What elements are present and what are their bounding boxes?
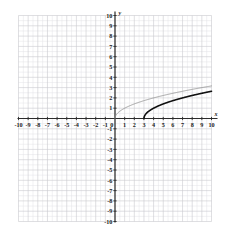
x-tick-label-2: 2 xyxy=(133,121,136,128)
y-tick-label-2: 2 xyxy=(109,94,112,101)
y-tick-label-neg3: -3 xyxy=(107,146,112,153)
y-tick-label-4: 4 xyxy=(109,74,112,81)
y-tick-label-neg7: -7 xyxy=(107,187,112,194)
y-tick-label-neg5: -5 xyxy=(107,166,112,173)
y-axis-label: y xyxy=(117,10,121,16)
x-tick-label-6: 6 xyxy=(171,121,174,128)
y-tick-label-neg8: -8 xyxy=(107,197,112,204)
x-tick-label-10: 10 xyxy=(208,121,214,128)
x-tick-label-5: 5 xyxy=(162,121,165,128)
x-tick-label-1: 1 xyxy=(123,121,126,128)
coordinate-plane-svg: -10-9-8-7-6-5-4-3-2-1012345678910-10-9-8… xyxy=(0,0,225,236)
y-tick-label-neg1: -1 xyxy=(107,125,112,132)
y-tick-label-10: 10 xyxy=(106,12,112,19)
y-tick-label-6: 6 xyxy=(109,53,112,60)
y-tick-label-1: 1 xyxy=(109,104,112,111)
x-tick-label-neg2: -2 xyxy=(93,121,98,128)
x-axis-label: x xyxy=(214,111,218,117)
y-tick-label-3: 3 xyxy=(109,84,112,91)
y-tick-label-neg4: -4 xyxy=(107,156,112,163)
y-tick-label-neg10: -10 xyxy=(104,218,112,225)
x-tick-label-4: 4 xyxy=(152,121,155,128)
x-tick-label-neg4: -4 xyxy=(74,121,79,128)
x-tick-label-neg5: -5 xyxy=(64,121,69,128)
graph-figure: -10-9-8-7-6-5-4-3-2-1012345678910-10-9-8… xyxy=(0,0,225,236)
y-tick-label-neg2: -2 xyxy=(107,135,112,142)
y-tick-label-5: 5 xyxy=(109,63,112,70)
x-tick-label-3: 3 xyxy=(142,121,145,128)
y-tick-label-neg9: -9 xyxy=(107,207,112,214)
x-tick-label-8: 8 xyxy=(191,121,194,128)
x-tick-label-7: 7 xyxy=(181,121,184,128)
y-tick-label-8: 8 xyxy=(109,32,112,39)
x-tick-label-neg10: -10 xyxy=(14,121,22,128)
x-tick-label-neg7: -7 xyxy=(45,121,50,128)
x-tick-label-neg8: -8 xyxy=(35,121,40,128)
x-tick-label-neg3: -3 xyxy=(83,121,88,128)
y-tick-label-7: 7 xyxy=(109,43,112,50)
x-tick-label-neg9: -9 xyxy=(26,121,31,128)
y-tick-label-neg6: -6 xyxy=(107,177,112,184)
x-tick-label-9: 9 xyxy=(200,121,203,128)
x-tick-label-neg6: -6 xyxy=(55,121,60,128)
y-tick-label-9: 9 xyxy=(109,22,112,29)
